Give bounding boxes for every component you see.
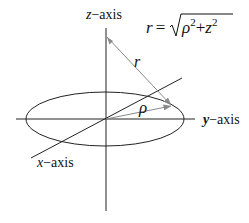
rho-vector-label: ρ xyxy=(138,98,147,117)
radius-formula: r= ρ2+z2 xyxy=(146,14,233,37)
z-axis-label: z−axis xyxy=(85,7,122,22)
r-vector-label: r xyxy=(134,53,141,70)
svg-text:r=: r= xyxy=(146,18,165,37)
coordinate-diagram: z−axis y−axis x−axis r ρ r= ρ2+z2 xyxy=(0,0,249,223)
y-axis-label: y−axis xyxy=(201,112,240,127)
x-axis-label: x−axis xyxy=(36,155,74,170)
svg-text:ρ2+z2: ρ2+z2 xyxy=(181,16,217,37)
r-vector-tail-arrowhead xyxy=(107,37,113,45)
